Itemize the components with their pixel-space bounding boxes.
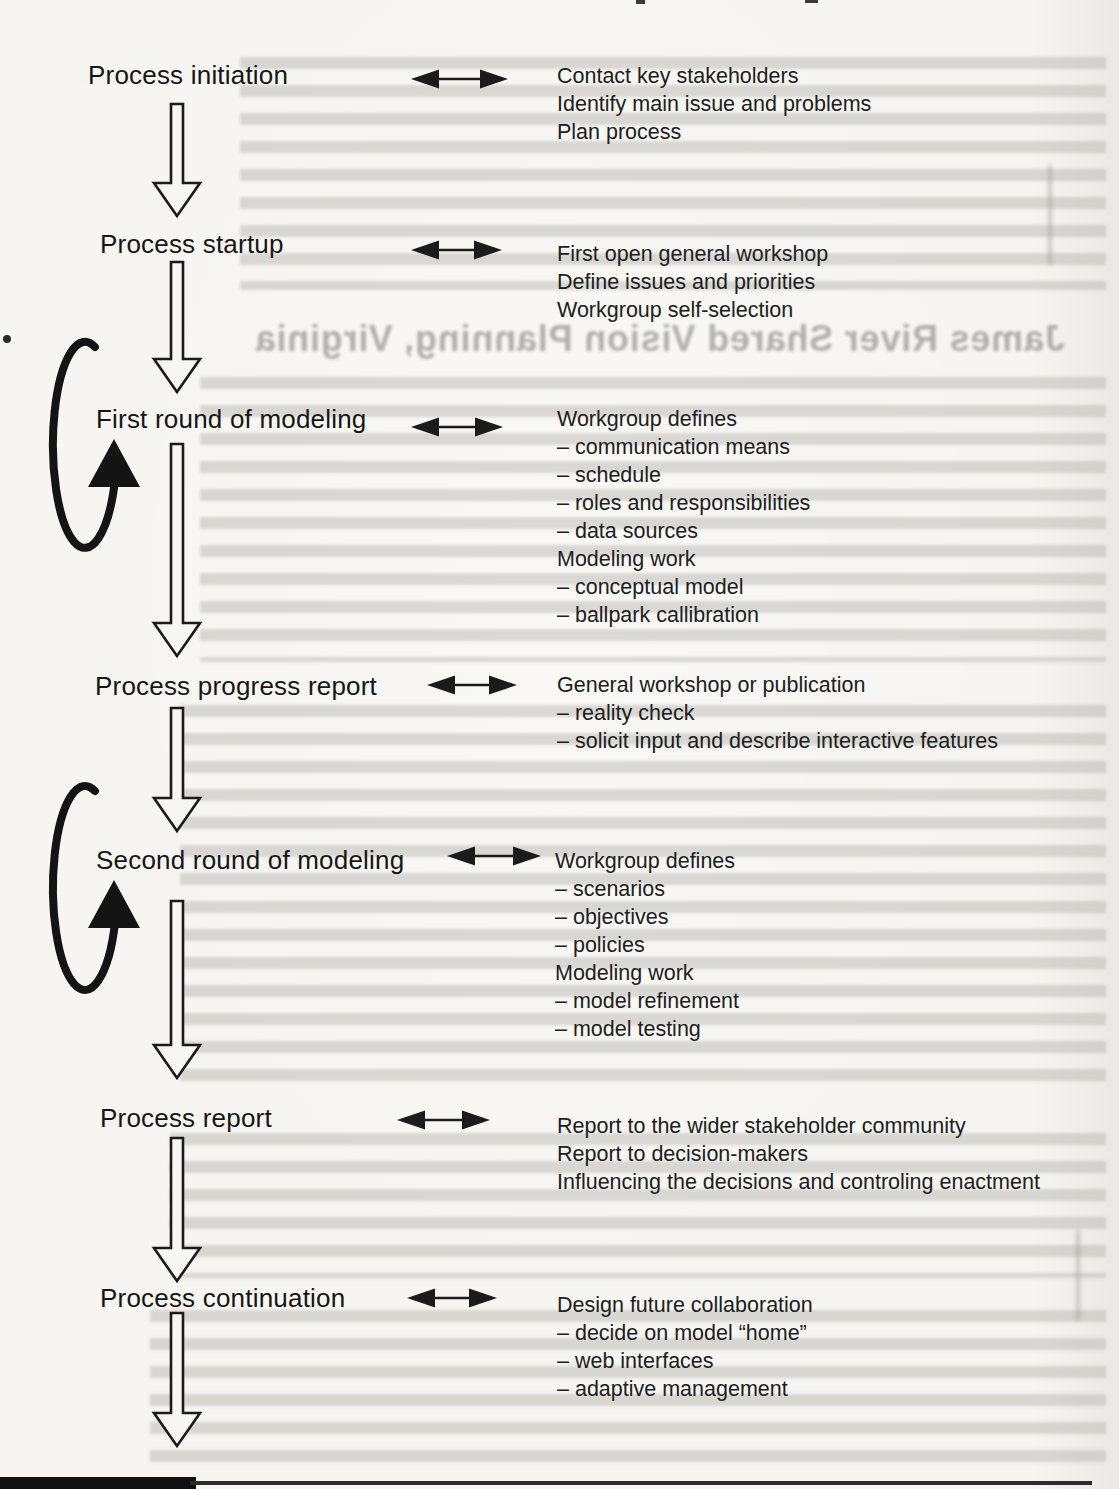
note-line: Identify main issue and problems bbox=[557, 90, 871, 118]
note-line: – roles and responsibilities bbox=[557, 489, 810, 517]
note-line: Plan process bbox=[557, 118, 871, 146]
stage-notes-process-initiation: Contact key stakeholders Identify main i… bbox=[557, 62, 871, 146]
double-arrow-2 bbox=[411, 241, 502, 260]
page-bottom-bar bbox=[0, 1477, 196, 1489]
loop-arrow-first-round bbox=[53, 342, 140, 548]
note-line: – adaptive management bbox=[557, 1375, 813, 1403]
note-line: Modeling work bbox=[555, 959, 739, 987]
down-arrow-5 bbox=[154, 901, 200, 1078]
down-arrow-7 bbox=[154, 1313, 200, 1446]
stage-notes-first-round-modeling: Workgroup defines – communication means … bbox=[557, 405, 810, 629]
note-line: – model testing bbox=[555, 1015, 739, 1043]
note-line: – scenarios bbox=[555, 875, 739, 903]
double-arrow-6 bbox=[397, 1111, 490, 1130]
stage-notes-process-progress-report: General workshop or publication – realit… bbox=[557, 671, 998, 755]
double-arrow-4 bbox=[427, 676, 517, 695]
note-line: Contact key stakeholders bbox=[557, 62, 871, 90]
stage-label-process-startup: Process startup bbox=[100, 229, 284, 260]
note-line: – solicit input and describe interactive… bbox=[557, 727, 998, 755]
stage-notes-process-report: Report to the wider stakeholder communit… bbox=[557, 1112, 1040, 1196]
note-line: Define issues and priorities bbox=[557, 268, 828, 296]
note-line: – decide on model “home” bbox=[557, 1319, 813, 1347]
page-bottom-rule bbox=[190, 1481, 1092, 1485]
double-arrow-3 bbox=[411, 418, 503, 437]
note-line: Report to the wider stakeholder communit… bbox=[557, 1112, 1040, 1140]
note-line: Influencing the decisions and controling… bbox=[557, 1168, 1040, 1196]
note-line: – communication means bbox=[557, 433, 810, 461]
scan-artifact-dot bbox=[3, 335, 11, 343]
double-arrow-7 bbox=[407, 1289, 497, 1308]
stage-label-process-report: Process report bbox=[100, 1103, 272, 1134]
loop-arrow-second-round bbox=[53, 786, 140, 990]
stage-label-first-round-modeling: First round of modeling bbox=[96, 404, 367, 435]
stage-label-second-round-modeling: Second round of modeling bbox=[96, 845, 404, 876]
double-arrow-5 bbox=[447, 847, 541, 866]
note-line: Workgroup defines bbox=[555, 847, 739, 875]
note-line: – ballpark callibration bbox=[557, 601, 810, 629]
stage-notes-process-continuation: Design future collaboration – decide on … bbox=[557, 1291, 813, 1403]
note-line: – data sources bbox=[557, 517, 810, 545]
note-line: – objectives bbox=[555, 903, 739, 931]
stage-label-process-continuation: Process continuation bbox=[100, 1283, 345, 1314]
stage-label-process-initiation: Process initiation bbox=[88, 60, 288, 91]
down-arrow-6 bbox=[154, 1138, 200, 1281]
note-line: – model refinement bbox=[555, 987, 739, 1015]
note-line: – schedule bbox=[557, 461, 810, 489]
down-arrow-1 bbox=[154, 104, 200, 216]
note-line: General workshop or publication bbox=[557, 671, 998, 699]
stage-label-process-progress-report: Process progress report bbox=[95, 671, 377, 702]
note-line: – policies bbox=[555, 931, 739, 959]
note-line: Report to decision-makers bbox=[557, 1140, 1040, 1168]
scan-artifact-mark bbox=[636, 0, 645, 4]
note-line: Workgroup self-selection bbox=[557, 296, 828, 324]
stage-notes-process-startup: First open general workshop Define issue… bbox=[557, 240, 828, 324]
down-arrow-2 bbox=[154, 262, 200, 392]
down-arrow-4 bbox=[154, 708, 200, 831]
note-line: – reality check bbox=[557, 699, 998, 727]
note-line: – conceptual model bbox=[557, 573, 810, 601]
down-arrow-3 bbox=[154, 444, 200, 656]
note-line: – web interfaces bbox=[557, 1347, 813, 1375]
scan-artifact-mark bbox=[805, 0, 818, 3]
double-arrow-1 bbox=[411, 70, 508, 89]
note-line: Workgroup defines bbox=[557, 405, 810, 433]
stage-notes-second-round-modeling: Workgroup defines – scenarios – objectiv… bbox=[555, 847, 739, 1043]
note-line: First open general workshop bbox=[557, 240, 828, 268]
note-line: Modeling work bbox=[557, 545, 810, 573]
note-line: Design future collaboration bbox=[557, 1291, 813, 1319]
